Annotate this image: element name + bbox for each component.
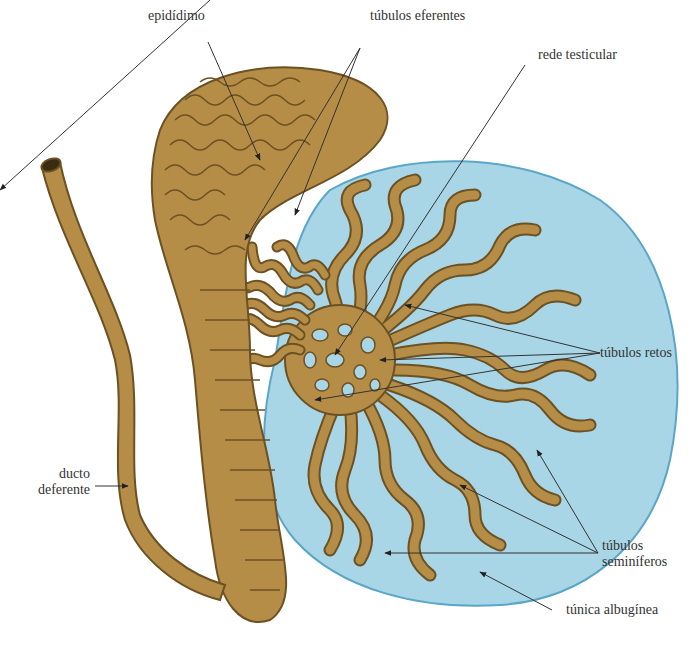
- label-epididimo: epidídimo: [148, 8, 205, 24]
- label-ducto-deferente-line2: deferente: [20, 482, 90, 498]
- label-tunica-albuginea: túnica albugínea: [566, 602, 658, 618]
- label-tubulos-seminiferos-line2: seminíferos: [602, 554, 667, 570]
- label-tubulos-retos: túbulos retos: [600, 345, 672, 361]
- label-rede-testicular: rede testicular: [538, 47, 617, 63]
- label-tubulos-seminiferos-line1: túbulos: [602, 538, 643, 554]
- label-tubulos-eferentes: túbulos eferentes: [370, 8, 465, 24]
- label-ducto-deferente-line1: ducto: [40, 466, 90, 482]
- testis-anatomy-illustration: [0, 0, 700, 647]
